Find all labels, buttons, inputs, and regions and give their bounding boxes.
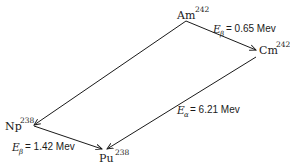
energy-label-am-cm: E β = 0.65 Mev [212, 23, 276, 38]
decay-scheme-diagram: Am 242 Cm 242 Np 238 Pu 238 E β = 0.65 M… [0, 0, 290, 167]
nuclide-cm-242: Cm 242 [259, 40, 290, 57]
energy-value: = 6.21 Mev [190, 104, 240, 115]
arrow-am-to-np [34, 21, 186, 125]
energy-value: = 0.65 Mev [226, 23, 276, 34]
energy-value: = 1.42 Mev [25, 141, 75, 152]
nuclide-mass: 242 [276, 40, 290, 49]
energy-label-np-pu: E β = 1.42 Mev [11, 141, 75, 156]
nuclide-mass: 238 [115, 148, 130, 157]
arrow-cm-to-pu [107, 57, 256, 149]
nuclide-mass: 242 [195, 5, 210, 14]
energy-label-cm-pu: E α = 6.21 Mev [176, 104, 240, 119]
nuclide-np-238: Np 238 [5, 116, 35, 133]
energy-subscript: α [184, 111, 189, 119]
nuclide-symbol: Pu [99, 152, 114, 165]
nuclide-am-242: Am 242 [176, 5, 210, 22]
energy-subscript: β [18, 148, 23, 156]
energy-subscript: β [219, 30, 224, 38]
nuclide-mass: 238 [20, 116, 35, 125]
nuclide-pu-238: Pu 238 [99, 148, 130, 165]
nuclide-symbol: Am [176, 9, 196, 22]
